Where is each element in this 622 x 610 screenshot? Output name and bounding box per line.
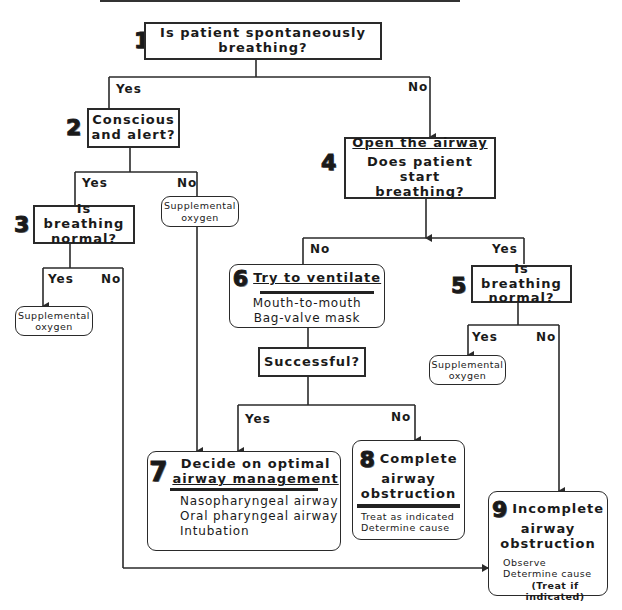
node-6-try-ventilate: 6 Try to ventilate Mouth-to-mouth Bag-va… <box>229 264 385 328</box>
node-3-line2: normal? <box>51 232 117 247</box>
node-6-item: Bag-valve mask <box>254 311 361 326</box>
node-9-incomplete-obstruction: 9 Incomplete airway obstruction Observe … <box>488 491 608 596</box>
node-8-heading2: airway <box>381 472 436 487</box>
node-4-heading: Open the airway <box>352 136 487 151</box>
node-8-item: Treat as indicated <box>361 511 454 522</box>
node-7-airway-management: 7 Decide on optimal airway management Na… <box>147 451 341 551</box>
edge-label-n5-yes: Yes <box>472 330 498 344</box>
action-line2: oxygen <box>35 321 73 332</box>
step-number-8: 8 <box>360 447 376 472</box>
edge-label-n4-yes: Yes <box>492 242 518 256</box>
edge-label-n4-no: No <box>310 242 330 256</box>
edge-label-n1-yes: Yes <box>116 82 142 96</box>
edge-label-n3-no: No <box>101 272 121 286</box>
action-line1: Supplemental <box>164 200 236 211</box>
node-3-line1: Is breathing <box>35 202 133 232</box>
node-2-conscious-alert: Conscious and alert? <box>87 108 180 148</box>
node-9-item: Observe <box>503 557 546 568</box>
node-9-heading1: Incomplete <box>512 502 604 517</box>
heading-bar <box>357 504 460 508</box>
heading-bar <box>260 291 374 294</box>
airway-flowchart: 1 Is patient spontaneously breathing? Ye… <box>0 0 622 610</box>
action-line1: Supplemental <box>432 359 504 370</box>
node-4-line1: Does patient start <box>346 155 494 185</box>
node-5-line2: normal? <box>489 291 555 306</box>
node-7-heading2: airway management <box>172 472 338 487</box>
node-8-heading-row: 8 Complete <box>360 447 458 472</box>
action-supplemental-oxygen-n3: Supplemental oxygen <box>15 306 93 336</box>
step-number-5: 5 <box>451 273 466 298</box>
node-4-line2: breathing? <box>375 185 464 200</box>
step-number-7: 7 <box>149 457 168 487</box>
action-line2: oxygen <box>449 370 487 381</box>
action-line2: oxygen <box>181 212 219 223</box>
step-number-2: 2 <box>66 115 81 140</box>
node-6-heading: Try to ventilate <box>253 271 381 286</box>
node-7-heading1: Decide on optimal <box>181 457 331 472</box>
node-8-complete-obstruction: 8 Complete airway obstruction Treat as i… <box>352 440 465 540</box>
node-1-spontaneous-breathing: Is patient spontaneously breathing? <box>144 22 382 60</box>
node-7-item: Intubation <box>180 524 249 539</box>
heading-bar <box>170 488 318 491</box>
node-2-line1: Conscious <box>92 113 175 128</box>
node-7-item: Oral pharyngeal airway <box>180 509 338 524</box>
action-supplemental-oxygen-n2: Supplemental oxygen <box>161 196 239 227</box>
action-supplemental-oxygen-n5: Supplemental oxygen <box>429 355 506 385</box>
node-9-item: Determine cause <box>503 568 592 579</box>
node-7-heading-row: 7 Decide on optimal airway management <box>149 457 338 487</box>
step-number-4: 4 <box>321 150 336 175</box>
node-8-heading3: obstruction <box>361 487 456 502</box>
node-5-breathing-normal: Is breathing normal? <box>471 265 572 303</box>
successful-question: Successful? <box>264 355 360 370</box>
node-successful: Successful? <box>258 347 366 377</box>
edge-label-n1-no: No <box>408 80 428 94</box>
node-7-items: Nasopharyngeal airway Oral pharyngeal ai… <box>180 494 338 539</box>
node-8-heading1: Complete <box>380 452 458 467</box>
node-9-heading2: airway <box>521 522 576 537</box>
node-3-breathing-normal: Is breathing normal? <box>33 205 135 244</box>
node-8-items: Treat as indicated Determine cause <box>361 511 454 534</box>
action-line1: Supplemental <box>18 310 90 321</box>
step-number-3: 3 <box>14 212 29 237</box>
edge-label-n2-yes: Yes <box>82 176 108 190</box>
node-9-items: Observe Determine cause (Treat if indica… <box>503 557 607 603</box>
node-4-open-airway: Open the airway Does patient start breat… <box>344 137 496 199</box>
edge-label-n2-no: No <box>177 176 197 190</box>
node-8-item: Determine cause <box>361 522 450 533</box>
edge-label-succ-no: No <box>391 410 411 424</box>
node-9-heading3: obstruction <box>500 537 595 552</box>
edge-label-n5-no: No <box>536 330 556 344</box>
node-9-item: (Treat if indicated) <box>503 580 607 603</box>
node-1-question: Is patient spontaneously breathing? <box>146 26 380 56</box>
step-number-6: 6 <box>233 266 249 291</box>
node-9-heading-row: 9 Incomplete <box>492 497 604 522</box>
node-7-item: Nasopharyngeal airway <box>180 494 338 509</box>
node-5-line1: Is breathing <box>473 262 570 292</box>
node-7-heading: Decide on optimal airway management <box>172 457 338 487</box>
node-6-heading-row: 6 Try to ventilate <box>233 266 381 291</box>
node-6-item: Mouth-to-mouth <box>253 296 362 311</box>
node-2-line2: and alert? <box>91 128 175 143</box>
step-number-9: 9 <box>492 497 508 522</box>
edge-label-succ-yes: Yes <box>245 412 271 426</box>
edge-label-n3-yes: Yes <box>48 272 74 286</box>
